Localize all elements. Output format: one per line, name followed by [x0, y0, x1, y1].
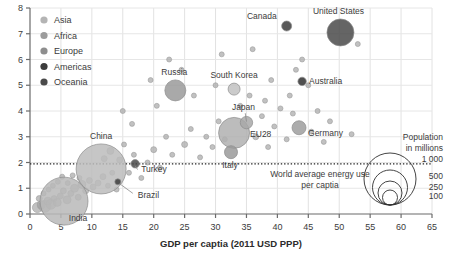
data-bubble	[219, 52, 224, 57]
x-axis-title: GDP per captia (2011 USD PPP)	[160, 238, 302, 249]
legend-swatch-asia[interactable]	[40, 16, 47, 23]
size-legend-value: 500	[429, 171, 443, 181]
data-bubble	[148, 78, 153, 83]
data-bubble	[216, 119, 221, 124]
chart-figure: 05101520253035404550556065012345678GDP p…	[0, 0, 449, 257]
x-axis-tick-label: 25	[180, 222, 190, 232]
size-legend-title-line2: in millions	[406, 143, 443, 153]
x-axis-tick-label: 55	[365, 222, 375, 232]
data-bubble	[269, 78, 274, 83]
data-bubble	[213, 83, 218, 88]
data-bubble	[263, 98, 268, 103]
data-bubble	[287, 93, 292, 98]
data-bubble-china[interactable]	[76, 144, 126, 194]
country-label-south-korea: South Korea	[210, 70, 258, 80]
y-axis-tick-label: 6	[18, 55, 23, 65]
data-bubble-italy[interactable]	[225, 146, 238, 159]
data-bubble-russia[interactable]	[165, 80, 186, 101]
country-label-china: China	[90, 131, 112, 141]
data-bubble	[151, 147, 157, 153]
y-axis-tick-label: 8	[18, 3, 23, 13]
size-legend-value: 100	[429, 191, 443, 201]
y-axis-tick-label: 2	[18, 158, 23, 168]
legend-swatch-europe[interactable]	[40, 47, 47, 54]
data-bubble	[131, 152, 136, 157]
x-axis-tick-label: 65	[427, 222, 437, 232]
data-bubble	[126, 170, 131, 175]
data-bubble	[321, 139, 326, 144]
data-bubble-canada[interactable]	[282, 21, 292, 31]
country-label-united-states: United States	[313, 6, 364, 16]
country-label-japan: Japan	[232, 102, 255, 112]
size-legend-title-line1: Population	[403, 132, 443, 142]
data-bubble	[164, 134, 169, 139]
data-bubble	[204, 134, 209, 139]
data-bubble	[327, 119, 332, 124]
data-bubble-united-states[interactable]	[327, 19, 354, 46]
world-average-label-line1: World average energy use	[270, 169, 370, 179]
world-average-label-line2: per captia	[301, 180, 339, 190]
data-bubble	[122, 142, 127, 147]
country-label-india: India	[69, 213, 88, 223]
country-label-brazil: Brazil	[138, 190, 159, 200]
x-axis-tick-label: 20	[149, 222, 159, 232]
country-label-turkey: Turkey	[141, 164, 167, 174]
data-bubble	[170, 152, 175, 157]
data-bubble-japan[interactable]	[240, 116, 252, 128]
data-bubble	[188, 127, 193, 132]
country-label-russia: Russia	[161, 67, 187, 77]
legend-swatch-americas[interactable]	[40, 63, 47, 70]
data-bubble	[349, 132, 354, 137]
data-bubble-turkey[interactable]	[131, 160, 139, 168]
country-label-germany: Germany	[308, 128, 344, 138]
legend-label-asia: Asia	[54, 15, 72, 25]
x-axis-tick-label: 30	[211, 222, 221, 232]
x-axis-tick-label: 40	[272, 222, 282, 232]
size-legend-circle	[378, 181, 402, 205]
data-bubble	[300, 57, 305, 62]
y-axis-tick-label: 3	[18, 132, 23, 142]
data-bubble	[315, 109, 320, 114]
legend-swatch-oceania[interactable]	[40, 78, 47, 85]
x-axis-tick-label: 35	[241, 222, 251, 232]
y-axis-tick-label: 5	[18, 80, 23, 90]
data-bubble	[130, 121, 135, 126]
country-label-australia: Australia	[309, 76, 342, 86]
size-legend-circle	[383, 190, 398, 205]
data-bubble	[70, 173, 75, 178]
data-bubble-australia[interactable]	[298, 77, 306, 85]
data-bubble	[293, 67, 298, 72]
x-axis-tick-label: 10	[87, 222, 97, 232]
data-bubble	[167, 57, 172, 62]
x-axis-tick-label: 0	[27, 222, 32, 232]
country-label-canada: Canada	[247, 11, 277, 21]
data-bubble	[278, 106, 283, 111]
data-bubble	[182, 141, 188, 147]
bubble-chart-canvas: 05101520253035404550556065012345678GDP p…	[0, 0, 449, 257]
legend-label-americas: Americas	[54, 62, 92, 72]
x-axis-tick-label: 45	[303, 222, 313, 232]
data-bubble	[272, 124, 277, 129]
data-bubble	[154, 103, 159, 108]
size-legend-circle	[364, 153, 416, 205]
data-bubble	[210, 145, 215, 150]
data-bubble	[198, 155, 203, 160]
x-axis-tick-label: 50	[334, 222, 344, 232]
legend-label-europe: Europe	[54, 46, 83, 56]
data-bubble-germany[interactable]	[292, 121, 306, 135]
size-legend-value: 1 000	[422, 154, 444, 164]
data-bubble	[355, 42, 360, 47]
country-label-italy: Italy	[222, 160, 238, 170]
data-bubble	[284, 137, 289, 142]
x-axis-tick-label: 15	[118, 222, 128, 232]
legend-label-africa: Africa	[54, 31, 77, 41]
data-bubble	[290, 111, 295, 116]
y-axis-tick-label: 0	[18, 209, 23, 219]
size-legend-circle	[373, 170, 408, 205]
data-bubble	[120, 109, 125, 114]
data-bubble-south-korea[interactable]	[228, 83, 240, 95]
data-bubble	[259, 114, 264, 119]
legend-swatch-africa[interactable]	[40, 32, 47, 39]
data-bubble	[191, 93, 196, 98]
country-label-eu28: EU28	[250, 129, 272, 139]
